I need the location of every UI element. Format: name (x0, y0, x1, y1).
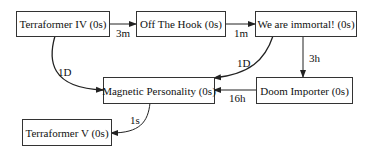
edge-label-3h: 3h (309, 53, 320, 64)
node-terraformer-v[interactable]: Terraformer V (0s) (22, 119, 112, 146)
node-doom-importer[interactable]: Doom Importer (0s) (256, 77, 353, 104)
node-we-are-immortal[interactable]: We are immortal! (0s) (255, 11, 357, 37)
node-off-the-hook[interactable]: Off The Hook (0s) (136, 11, 226, 37)
node-label: Terraformer V (0s) (25, 127, 108, 139)
edge-label-1d-right: 1D (237, 58, 250, 69)
node-terraformer-iv[interactable]: Terraformer IV (0s) (16, 11, 110, 37)
node-label: Terraformer IV (0s) (20, 18, 107, 30)
edge-label-3m: 3m (116, 28, 130, 39)
edge-terraformer-iv-to-magnetic-personality (52, 36, 103, 90)
edge-label-16h: 16h (229, 93, 246, 104)
node-label: Doom Importer (0s) (260, 85, 349, 97)
node-label: We are immortal! (0s) (257, 18, 354, 30)
node-label: Magnetic Personality (0s) (102, 85, 216, 97)
edge-label-1s: 1s (130, 115, 140, 126)
edge-label-1d-left: 1D (58, 67, 71, 78)
node-label: Off The Hook (0s) (140, 18, 222, 30)
diagram-canvas: Terraformer IV (0s) Off The Hook (0s) We… (0, 0, 370, 157)
node-magnetic-personality[interactable]: Magnetic Personality (0s) (103, 77, 215, 104)
edge-label-1m: 1m (234, 28, 248, 39)
